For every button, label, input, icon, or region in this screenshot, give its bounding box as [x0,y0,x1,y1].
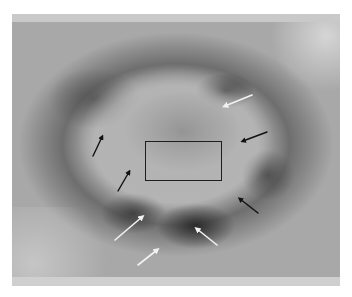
white-arrow-icon [197,229,217,245]
black-arrow-icon [118,172,129,191]
arrow-annotations [0,0,352,297]
white-arrows [115,95,252,265]
black-arrow-icon [240,199,258,213]
white-arrow-icon [115,217,142,240]
black-arrows [93,132,267,213]
black-arrow-icon [93,137,102,156]
white-arrow-icon [138,250,157,265]
white-arrow-icon [225,95,252,106]
black-arrow-icon [243,132,267,141]
